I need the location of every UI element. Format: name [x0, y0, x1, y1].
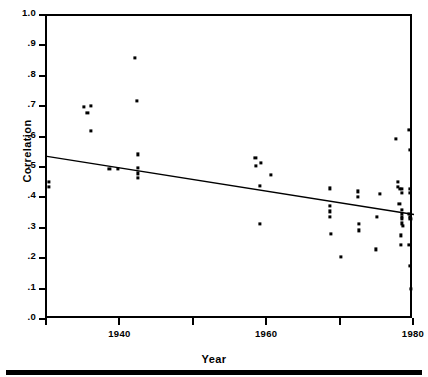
y-axis-tick: .2 [0, 257, 45, 258]
y-axis-tick: .9 [0, 44, 45, 45]
data-point [258, 184, 261, 187]
data-point [400, 208, 403, 211]
data-point [328, 187, 331, 190]
data-point [48, 180, 51, 183]
data-point [255, 164, 258, 167]
y-tick-mark [39, 136, 45, 138]
data-point [117, 167, 120, 170]
x-tick-mark [192, 318, 194, 325]
data-point [339, 255, 342, 258]
x-tick-label: 1980 [396, 328, 428, 339]
y-axis-tick: .0 [0, 318, 45, 319]
x-axis-tick [339, 318, 340, 319]
data-point [133, 56, 136, 59]
data-point [328, 215, 331, 218]
y-tick-mark [39, 257, 45, 259]
y-tick-mark [39, 166, 45, 168]
x-axis-tick: 1960 [265, 318, 266, 319]
y-tick-label: .1 [27, 281, 36, 292]
x-axis-title: Year [0, 353, 428, 365]
y-tick-label: .0 [27, 311, 36, 322]
data-point [407, 243, 410, 246]
data-point [89, 105, 92, 108]
page-divider-rule [6, 370, 422, 375]
scatterplot-figure: .0.1.2.3.4.5.6.7.8.91.0 194019601980 Cor… [0, 0, 428, 377]
x-tick-mark [265, 318, 267, 325]
y-axis-tick: .3 [0, 227, 45, 228]
data-point [408, 264, 411, 267]
data-point [378, 192, 381, 195]
x-axis-tick: 1940 [118, 318, 119, 319]
data-point [401, 217, 404, 220]
data-point [135, 99, 138, 102]
y-tick-label: 1.0 [22, 7, 36, 18]
data-point [259, 161, 262, 164]
data-point [408, 148, 411, 151]
data-point [357, 229, 360, 232]
data-point [89, 129, 92, 132]
y-axis-tick: .8 [0, 75, 45, 76]
data-point [328, 204, 331, 207]
data-point [48, 186, 51, 189]
data-point [329, 232, 332, 235]
data-point [399, 243, 402, 246]
data-point [408, 187, 411, 190]
data-point [374, 248, 377, 251]
y-tick-mark [39, 288, 45, 290]
data-point [394, 138, 397, 141]
data-point [399, 234, 402, 237]
data-point [401, 191, 404, 194]
data-point [357, 223, 360, 226]
regression-line [47, 16, 414, 320]
y-tick-label: .2 [27, 250, 36, 261]
y-tick-label: .3 [27, 220, 36, 231]
data-point [407, 128, 410, 131]
data-point [136, 172, 139, 175]
y-tick-mark [39, 196, 45, 198]
data-point [86, 111, 89, 114]
data-point [136, 176, 139, 179]
x-tick-mark [45, 318, 47, 325]
data-point [357, 195, 360, 198]
y-tick-label: .9 [27, 37, 36, 48]
data-point [108, 167, 111, 170]
x-axis-tick [192, 318, 193, 319]
y-axis-title: Correlation [21, 81, 33, 221]
data-point [254, 156, 257, 159]
data-point [400, 187, 403, 190]
data-point [409, 217, 412, 220]
data-point [357, 190, 360, 193]
y-axis-tick: 1.0 [0, 14, 45, 15]
data-point [269, 173, 272, 176]
y-tick-mark [39, 105, 45, 107]
data-point [398, 202, 401, 205]
y-tick-mark [39, 227, 45, 229]
data-point [82, 105, 85, 108]
x-tick-label: 1960 [249, 328, 283, 339]
plot-area [45, 14, 412, 318]
data-point [136, 153, 139, 156]
x-tick-mark [118, 318, 120, 325]
x-axis-tick: 1980 [412, 318, 413, 319]
x-tick-label: 1940 [102, 328, 136, 339]
data-point [328, 210, 331, 213]
y-tick-mark [39, 44, 45, 46]
data-point [396, 180, 399, 183]
data-point [409, 287, 412, 290]
data-point [401, 224, 404, 227]
data-point [408, 191, 411, 194]
y-tick-label: .8 [27, 68, 36, 79]
y-axis-tick: .1 [0, 288, 45, 289]
x-axis-tick [45, 318, 46, 319]
x-tick-mark [339, 318, 341, 325]
x-tick-mark [412, 318, 414, 325]
y-tick-mark [39, 14, 45, 16]
data-point [258, 223, 261, 226]
data-point [136, 166, 139, 169]
y-tick-mark [39, 75, 45, 77]
data-point [376, 216, 379, 219]
